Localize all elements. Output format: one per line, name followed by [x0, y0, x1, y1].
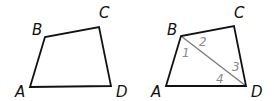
vertex-label-a: A: [150, 83, 161, 101]
vertex-label-d: D: [251, 83, 263, 101]
diagram-stage: A B C D A B C D 1 2 3 4: [0, 0, 274, 101]
vertex-label-c: C: [234, 4, 245, 22]
vertex-label-b: B: [32, 21, 42, 39]
angle-label-1: 1: [182, 46, 190, 60]
diagram-canvas: A B C D A B C D 1 2 3 4: [0, 0, 274, 101]
vertex-label-b: B: [167, 21, 177, 39]
vertex-label-d: D: [116, 83, 128, 101]
figure-left-quadrilateral: A B C D: [14, 4, 128, 101]
figure-right-quadrilateral-with-diagonal: A B C D 1 2 3 4: [150, 4, 263, 101]
vertex-label-c: C: [99, 4, 110, 22]
angle-label-2: 2: [199, 35, 207, 49]
angle-label-4: 4: [216, 72, 224, 86]
angle-label-3: 3: [232, 60, 240, 74]
vertex-label-a: A: [14, 83, 25, 101]
